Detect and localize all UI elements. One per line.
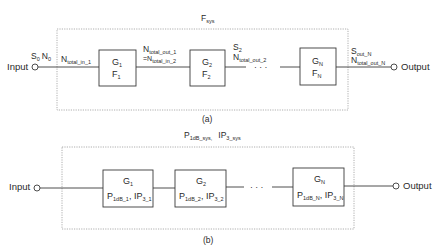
panel-a: Fsys Input S0N0 · · · Ntotal_in_1 Ntotal…: [7, 13, 430, 124]
fsys-label: Fsys: [201, 13, 215, 24]
output-label-a: Output: [401, 61, 430, 72]
input-label-b: Input: [9, 181, 30, 192]
caption-a: (a): [202, 114, 213, 124]
input-port-a: [32, 64, 38, 70]
panel-b: P1dB_sys,IP3_sys Input · · · G1 P1dB_1, …: [9, 130, 432, 245]
block-g1-b: G1 P1dB_1, IP3_1: [103, 170, 153, 207]
ellipsis-a: · · ·: [254, 62, 267, 72]
input-label-a: Input: [7, 61, 28, 72]
block-g1-a: G1 F1: [99, 50, 136, 86]
cascade-diagram: Fsys Input S0N0 · · · Ntotal_in_1 Ntotal…: [0, 0, 439, 252]
system-label-b: P1dB_sys,IP3_sys: [184, 130, 241, 141]
block-g2-b: G2 P1dB_2, IP3_2: [175, 170, 226, 207]
block-gn-a: GN FN: [300, 48, 336, 85]
output-port-a: [391, 64, 397, 70]
output-label-b: Output: [403, 180, 432, 191]
n-total-out-1-label: Ntotal_out_1: [143, 44, 176, 55]
block-g2-a: G2 F2: [190, 50, 225, 86]
input-signal-label: S0N0: [31, 51, 51, 62]
n-total-out-2-label: Ntotal_out_2: [233, 52, 266, 63]
caption-b: (b): [203, 235, 214, 245]
input-port-b: [34, 185, 40, 191]
n-total-in-2-label: =Ntotal_in_2: [143, 55, 176, 64]
n-total-in-1-label: Ntotal_in_1: [61, 54, 91, 65]
ellipsis-b: · · ·: [250, 182, 263, 192]
output-port-b: [393, 183, 399, 189]
block-gn-b: GN P1dB_N, IP3_N: [293, 168, 344, 206]
